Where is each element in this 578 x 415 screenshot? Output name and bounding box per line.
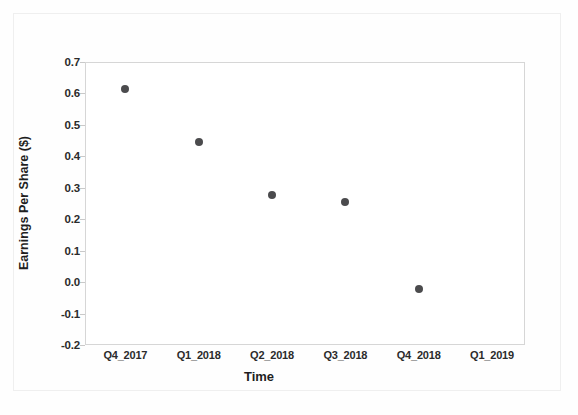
y-axis-tick-label: 0.3	[65, 182, 80, 194]
x-axis-title-text: Time	[244, 369, 274, 384]
y-axis-tick-label: -0.1	[61, 308, 80, 320]
x-axis-tick-label: Q4_2017	[103, 349, 147, 361]
y-axis-tick-label: 0.4	[65, 150, 80, 162]
data-point	[341, 198, 349, 206]
y-axis-tick-label: 0.2	[65, 213, 80, 225]
data-point	[268, 191, 276, 199]
x-axis-tick-label: Q4_2018	[397, 349, 441, 361]
y-axis-tick-label: 0.7	[65, 56, 80, 68]
y-axis-tick-mark	[80, 345, 85, 346]
plot-area	[85, 62, 525, 345]
y-axis-tick-label: 0.5	[65, 119, 80, 131]
data-point	[121, 85, 129, 93]
y-axis-tick-label: 0.0	[65, 276, 80, 288]
x-axis-tick-labels: Q4_2017Q1_2018Q2_2018Q3_2018Q4_2018Q1_20…	[0, 349, 578, 367]
y-axis-tick-label: 0.1	[65, 245, 80, 257]
x-axis-title: Time	[0, 369, 578, 384]
x-axis-tick-label: Q2_2018	[250, 349, 294, 361]
x-axis-tick-label: Q1_2018	[177, 349, 221, 361]
chart-figure: 0.70.60.50.40.30.20.10.0-0.1-0.2 Q4_2017…	[0, 0, 578, 415]
data-point	[195, 138, 203, 146]
y-axis-title: Earnings Per Share ($)	[17, 136, 31, 270]
data-point	[415, 285, 423, 293]
x-axis-tick-label: Q3_2018	[323, 349, 367, 361]
x-axis-tick-label: Q1_2019	[470, 349, 514, 361]
y-axis-tick-label: 0.6	[65, 87, 80, 99]
